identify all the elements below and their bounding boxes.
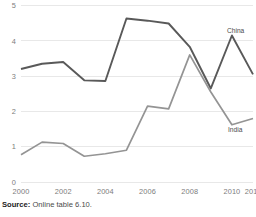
- series-line-china: [21, 19, 253, 89]
- x-axis-tick-label: 2000: [13, 187, 30, 196]
- x-axis-tick-label: 2011: [245, 187, 256, 196]
- x-axis-tick-label: 2006: [139, 187, 156, 196]
- y-axis-tick-label: 3: [12, 72, 16, 81]
- source-label: Source:: [2, 200, 30, 209]
- x-axis-tick-label: 2004: [97, 187, 114, 196]
- y-axis-tick-label: 0: [12, 178, 16, 187]
- x-axis-tick-label: 2010: [223, 187, 240, 196]
- y-axis-tick-label: 1: [12, 142, 16, 151]
- series-label-india: India: [228, 126, 243, 133]
- source-note: Source: Online table 6.10.: [2, 199, 254, 210]
- y-axis-tick-label: 2: [12, 107, 16, 116]
- series-label-china: China: [227, 27, 245, 34]
- y-axis-tick-label: 5: [12, 1, 16, 10]
- gridlines-group: [21, 6, 253, 183]
- x-axis-ticks: 2000200220042006200820102011: [13, 187, 256, 196]
- y-axis-tick-label: 4: [12, 37, 16, 46]
- x-axis-tick-label: 2008: [181, 187, 198, 196]
- figure-container: 012345 2000200220042006200820102011 Chin…: [0, 0, 256, 217]
- x-axis-tick-label: 2002: [55, 187, 72, 196]
- y-axis-ticks: 012345: [12, 1, 16, 187]
- series-lines-group: [21, 19, 253, 157]
- line-chart: 012345 2000200220042006200820102011 Chin…: [0, 0, 256, 196]
- source-text: Online table 6.10.: [32, 200, 92, 209]
- chart-svg: 012345 2000200220042006200820102011 Chin…: [0, 0, 256, 196]
